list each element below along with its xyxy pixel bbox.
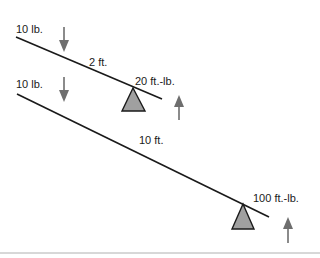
- bottom-torque-label: 100 ft.-lb.: [253, 192, 299, 204]
- top-distance-label: 2 ft.: [89, 56, 107, 68]
- top-down-arrow-icon: [59, 27, 69, 52]
- top-up-arrow-icon: [174, 95, 184, 120]
- bottom-force-label: 10 lb.: [16, 78, 43, 90]
- lever-diagram: [0, 0, 320, 258]
- top-force-label: 10 lb.: [16, 23, 43, 35]
- bottom-lever: [17, 77, 293, 243]
- bottom-up-arrow-icon: [283, 217, 293, 243]
- bottom-distance-label: 10 ft.: [139, 134, 163, 146]
- bottom-down-arrow-icon: [59, 77, 69, 102]
- top-fulcrum-icon: [122, 88, 145, 111]
- bottom-beam: [17, 94, 269, 217]
- top-torque-label: 20 ft.-lb.: [135, 75, 175, 87]
